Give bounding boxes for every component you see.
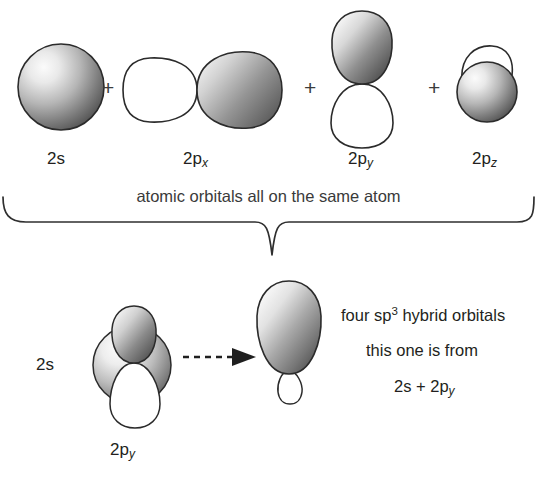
construction-label-2py: 2py <box>110 441 135 460</box>
figure-canvas: + + + 2s 2px 2py 2pz atomic orbitals all… <box>0 0 537 489</box>
orbital-label-2s-symbol: s <box>56 149 65 168</box>
orbital-label-2px: 2px <box>183 150 208 169</box>
grouping-brace <box>3 197 534 255</box>
orbital-label-2px-symbol: p <box>192 149 201 168</box>
note-line-1-post: hybrid orbitals <box>398 306 505 324</box>
note-line-3-subscript: y <box>449 384 455 398</box>
orbital-label-2py-subscript: y <box>367 156 373 170</box>
note-line-1-pre: four sp <box>341 306 391 324</box>
brace-caption: atomic orbitals all on the same atom <box>0 188 537 205</box>
transform-arrow <box>183 348 256 366</box>
orbital-label-2px-subscript: x <box>202 156 208 170</box>
operator-plus-1: + <box>102 77 114 98</box>
orbital-label-2pz-symbol: p <box>481 149 490 168</box>
sp3-hybrid-orbital-shape <box>257 281 321 404</box>
operator-plus-2: + <box>304 77 316 98</box>
construction-label-2py-symbol: p <box>119 440 128 459</box>
orbital-2px-shape <box>123 52 282 128</box>
construction-label-2s: 2s <box>36 356 54 373</box>
construction-label-2s-symbol: s <box>45 355 54 374</box>
note-line-2-text: this one is from <box>366 341 478 359</box>
orbital-label-2s: 2s <box>47 150 65 167</box>
orbital-label-2pz-subscript: z <box>491 156 497 170</box>
hybrid-construction-shape <box>93 306 171 428</box>
construction-label-2py-subscript: y <box>129 447 135 461</box>
note-line-3-text: 2s + 2p <box>394 377 449 395</box>
orbital-artwork <box>0 0 537 489</box>
orbital-label-2py-symbol: p <box>357 149 366 168</box>
orbital-label-2pz: 2pz <box>472 150 497 169</box>
operator-plus-3: + <box>428 77 440 98</box>
orbital-2py-shape <box>331 11 393 148</box>
orbital-2s-shape <box>18 44 104 130</box>
note-line-2: this one is from <box>366 342 478 359</box>
note-line-3: 2s + 2py <box>394 378 455 397</box>
note-line-1: four sp3 hybrid orbitals <box>341 306 505 323</box>
orbital-2pz-shape <box>457 46 517 122</box>
orbital-label-2py: 2py <box>348 150 373 169</box>
